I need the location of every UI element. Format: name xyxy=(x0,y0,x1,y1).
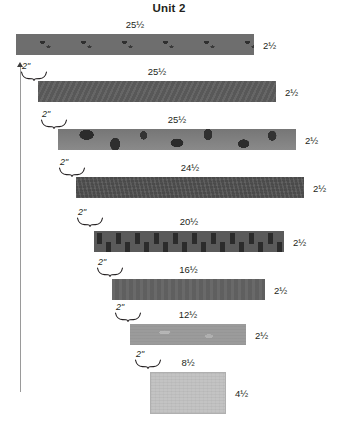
fabric-swatch xyxy=(150,372,226,414)
fabric-strip: 8½4½ xyxy=(150,372,226,414)
strip-height-label: 2½ xyxy=(255,329,268,340)
brace-glyph xyxy=(76,217,104,227)
strip-height-label: 2½ xyxy=(285,86,298,97)
fabric-strip: 12½2½ xyxy=(130,324,246,345)
strip-height-label: 2½ xyxy=(305,134,318,145)
arrow-shaft xyxy=(20,65,21,392)
left-up-arrow-icon xyxy=(16,62,25,392)
strip-width-label: 12½ xyxy=(130,309,246,320)
offset-brace-label: 2" xyxy=(98,257,106,267)
offset-brace: 2" xyxy=(58,158,88,178)
offset-brace: 2" xyxy=(76,208,106,228)
offset-brace-label: 2" xyxy=(78,207,86,217)
fabric-swatch xyxy=(130,324,246,345)
strip-width-label: 25½ xyxy=(58,114,296,125)
offset-brace: 2" xyxy=(20,62,50,82)
strip-width-label: 20½ xyxy=(94,216,284,227)
unit-2-cutting-diagram: Unit 2 25½2½25½2½25½2½24½2½20½2½16½2½12½… xyxy=(0,0,338,432)
fabric-strip: 25½2½ xyxy=(38,81,276,102)
fabric-swatch xyxy=(76,177,304,198)
offset-brace: 2" xyxy=(134,350,164,370)
brace-glyph xyxy=(134,359,162,369)
strip-height-label: 2½ xyxy=(293,236,306,247)
strip-width-label: 25½ xyxy=(16,19,254,30)
offset-brace: 2" xyxy=(114,303,144,323)
brace-glyph xyxy=(96,267,124,277)
strip-width-label: 16½ xyxy=(112,264,265,275)
offset-brace-label: 2" xyxy=(60,157,68,167)
strip-width-label: 25½ xyxy=(38,66,276,77)
fabric-strip: 24½2½ xyxy=(76,177,304,198)
strip-width-label: 24½ xyxy=(76,162,304,173)
offset-brace: 2" xyxy=(40,110,70,130)
fabric-swatch xyxy=(94,231,284,252)
strip-height-label: 4½ xyxy=(235,388,248,399)
page-title: Unit 2 xyxy=(0,2,338,14)
fabric-strip: 25½2½ xyxy=(58,129,296,150)
brace-glyph xyxy=(114,312,142,322)
brace-glyph xyxy=(58,167,86,177)
offset-brace-label: 2" xyxy=(116,302,124,312)
brace-glyph xyxy=(20,71,48,81)
offset-brace-label: 2" xyxy=(22,61,30,71)
fabric-swatch xyxy=(38,81,276,102)
fabric-swatch xyxy=(112,279,265,300)
strip-height-label: 2½ xyxy=(263,39,276,50)
fabric-strip: 16½2½ xyxy=(112,279,265,300)
strip-height-label: 2½ xyxy=(313,182,326,193)
offset-brace-label: 2" xyxy=(136,349,144,359)
fabric-strip: 20½2½ xyxy=(94,231,284,252)
strip-height-label: 2½ xyxy=(274,284,287,295)
offset-brace-label: 2" xyxy=(42,109,50,119)
fabric-swatch xyxy=(58,129,296,150)
fabric-swatch xyxy=(16,34,254,55)
fabric-strip: 25½2½ xyxy=(16,34,254,55)
brace-glyph xyxy=(40,119,68,129)
offset-brace: 2" xyxy=(96,258,126,278)
